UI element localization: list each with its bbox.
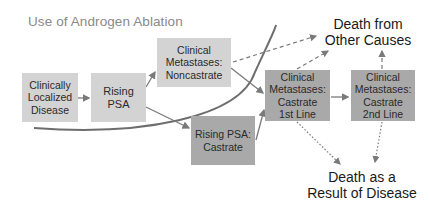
arrow-rising-psa-to-mets-noncastrate: [146, 72, 155, 87]
arrow-noncastrate-to-death-other: [233, 36, 316, 62]
node-clinical-metastases-noncastrate: Clinical Metastases: Noncastrate: [157, 38, 231, 87]
outcome-death-as-result-of-disease: Death as a Result of Disease: [300, 169, 424, 201]
node-clinically-localized-disease: Clinically Localized Disease: [22, 73, 78, 122]
arrow-castrate-1st-to-death-other: [297, 51, 328, 69]
arrow-castrate-1st-to-death-disease: [297, 122, 340, 164]
node-rising-psa-castrate: Rising PSA: Castrate: [191, 116, 255, 165]
arrow-castrate-2nd-to-death-disease: [375, 122, 382, 162]
arrow-noncastrate-to-castrate-1st: [231, 68, 263, 93]
node-clinical-metastases-castrate-2nd-line: Clinical Metastases: Castrate 2nd Line: [351, 70, 415, 121]
node-rising-psa: Rising PSA: [91, 73, 146, 122]
outcome-death-from-other-causes: Death from Other Causes: [318, 16, 418, 48]
arrow-rising-psa-castrate-to-castrate-1st: [256, 110, 264, 140]
node-clinical-metastases-castrate-1st-line: Clinical Metastases: Castrate 1st Line: [265, 70, 330, 121]
